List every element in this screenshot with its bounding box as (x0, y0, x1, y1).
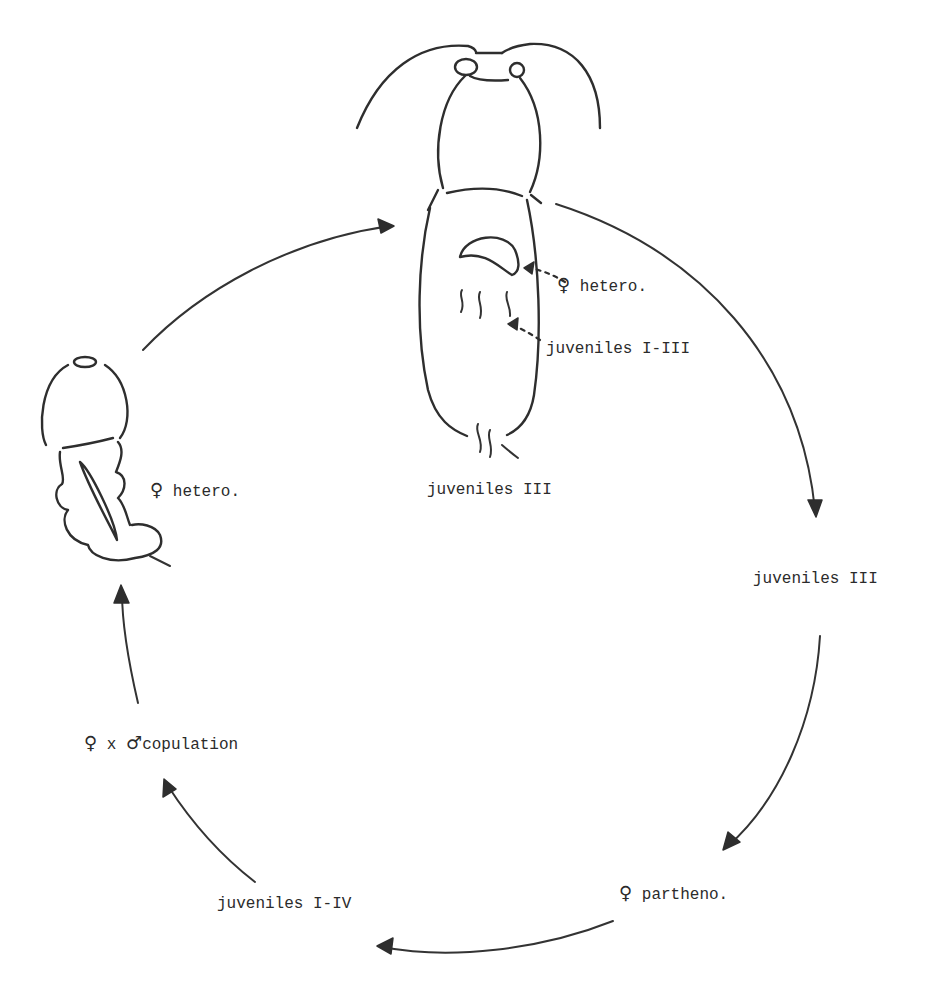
female-symbol-icon: ♀ (557, 274, 570, 295)
arrow-copulation-to-left (122, 592, 138, 703)
right-juveniles-label: juveniles III (753, 571, 878, 587)
top-hetero-label: ♀ hetero. (557, 276, 647, 295)
arrow-partheno-to-bottom (382, 921, 613, 953)
female-symbol-icon: ♀ (619, 882, 632, 903)
left-hetero-text: hetero. (173, 483, 240, 501)
partheno-label: ♀ partheno. (619, 884, 728, 903)
female-symbol-icon: ♀ (150, 479, 163, 500)
cycle-arrows (114, 204, 822, 954)
top-juveniles-inner-label: juveniles I-III (546, 341, 690, 357)
copulation-label: ♀ x ♂copulation (84, 734, 238, 753)
arrow-left-to-top (143, 226, 390, 350)
top-organism-illustration (357, 44, 600, 458)
bottom-juveniles-label: juveniles I-IV (217, 896, 351, 912)
top-hetero-text: hetero. (580, 278, 647, 296)
arrow-bottom-to-copulation (168, 786, 255, 882)
cross-x: x (107, 736, 117, 754)
partheno-text: partheno. (642, 886, 728, 904)
male-symbol-icon: ♂ (126, 732, 142, 753)
left-organism-illustration (42, 357, 170, 566)
female-symbol-icon: ♀ (84, 732, 97, 753)
top-caption-label: juveniles III (427, 482, 552, 498)
copulation-text: copulation (142, 736, 238, 754)
arrow-right-to-partheno (728, 636, 820, 846)
left-hetero-label: ♀ hetero. (150, 481, 240, 500)
life-cycle-diagram (0, 0, 946, 1005)
